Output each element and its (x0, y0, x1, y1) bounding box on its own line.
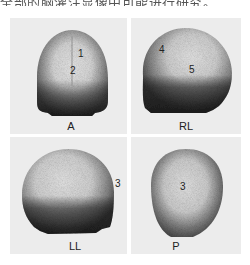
region-label-4: 4 (159, 44, 165, 55)
panel-left-lateral-view: 3 LL (10, 137, 127, 254)
posterior-brain-scan-image (131, 137, 241, 254)
cropped-caption-text: 全部的脑灌注显像中可能进行研究。 (0, 0, 250, 6)
view-label-posterior: P (156, 240, 196, 252)
view-label-anterior: A (51, 120, 91, 132)
panel-anterior-view: 1 2 A (10, 18, 127, 134)
view-label-right-lateral: RL (166, 120, 206, 132)
panel-right-lateral-view: 4 5 RL (131, 18, 241, 134)
region-label-5: 5 (189, 64, 195, 75)
view-label-left-lateral: LL (55, 240, 95, 252)
panel-posterior-view: 3 P (131, 137, 241, 254)
anterior-brain-scan-image (10, 18, 127, 134)
region-label-1: 1 (78, 48, 84, 59)
left-lateral-brain-scan-image (10, 137, 127, 254)
region-label-3-posterior: 3 (180, 181, 186, 192)
region-label-2: 2 (70, 65, 76, 76)
right-lateral-brain-scan-image (131, 18, 241, 134)
region-label-3-lateral: 3 (115, 178, 121, 189)
